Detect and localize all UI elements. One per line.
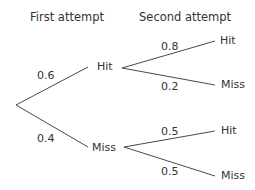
header-first-attempt: First attempt <box>30 11 104 24</box>
tree-branches <box>0 0 255 190</box>
prob-first-miss: 0.4 <box>37 132 55 145</box>
node-miss-miss: Miss <box>221 169 245 182</box>
prob-miss-miss: 0.5 <box>161 165 179 178</box>
prob-miss-hit: 0.5 <box>161 125 179 138</box>
prob-hit-hit: 0.8 <box>161 40 179 53</box>
node-hit-miss: Miss <box>221 78 245 91</box>
header-second-attempt: Second attempt <box>139 11 231 24</box>
node-miss-hit: Hit <box>221 124 237 137</box>
node-first-miss: Miss <box>92 141 116 154</box>
prob-hit-miss: 0.2 <box>161 80 179 93</box>
prob-first-hit: 0.6 <box>37 69 55 82</box>
node-hit-hit: Hit <box>220 34 236 47</box>
node-first-hit: Hit <box>97 60 113 73</box>
